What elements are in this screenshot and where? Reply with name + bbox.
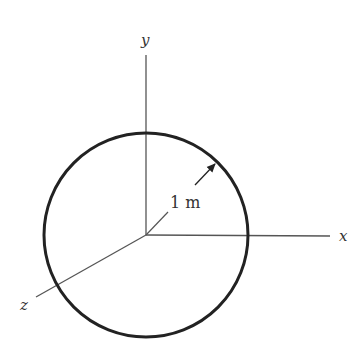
x-axis-label: x <box>339 227 348 245</box>
radius-line <box>146 212 168 235</box>
diagram-canvas: y x z 1 m <box>0 0 362 350</box>
z-axis <box>36 235 146 297</box>
radius-label: 1 m <box>170 193 200 212</box>
radius-arrow-icon <box>195 164 215 185</box>
z-axis-label: z <box>19 296 28 314</box>
y-axis-label: y <box>140 31 150 49</box>
x-axis <box>146 235 330 236</box>
